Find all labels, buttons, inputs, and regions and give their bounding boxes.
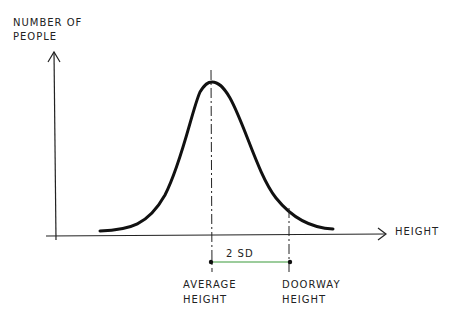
mean-label-line2: HEIGHT <box>183 293 227 307</box>
y-axis-label-line1: NUMBER OF <box>13 16 82 30</box>
interval-label: 2 SD <box>226 247 254 261</box>
y-axis-label-line2: PEOPLE <box>13 30 57 44</box>
interval-end-dot <box>288 260 292 264</box>
y-axis <box>48 52 60 240</box>
bell-curve <box>100 82 333 231</box>
normal-distribution-diagram: NUMBER OF PEOPLE HEIGHT 2 SD AVERAGE HEI… <box>0 0 460 327</box>
doorway-label-line2: HEIGHT <box>282 293 326 307</box>
mean-label-line1: AVERAGE <box>183 278 237 292</box>
doorway-label-line1: DOORWAY <box>282 278 341 292</box>
mean-line <box>211 70 212 272</box>
x-axis <box>46 228 386 240</box>
x-axis-label: HEIGHT <box>395 225 439 239</box>
interval-start-dot <box>209 260 213 264</box>
